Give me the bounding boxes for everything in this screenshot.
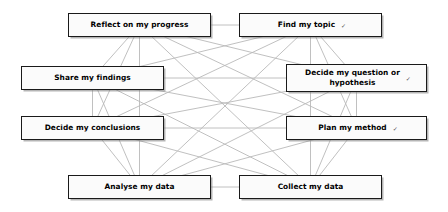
node-label: Share my findings (51, 73, 134, 83)
node-label: Plan my method (315, 123, 389, 133)
node-analyse-my-data[interactable]: Analyse my data (68, 175, 211, 199)
node-label: Decide my question or hypothesis (302, 68, 403, 88)
node-share-my-findings[interactable]: Share my findings (21, 66, 164, 90)
node-find-my-topic[interactable]: Find my topic ✓ (239, 13, 382, 37)
node-plan-my-method[interactable]: Plan my method ✓ (286, 116, 427, 140)
node-decide-my-question-or-hypothesis[interactable]: Decide my question or hypothesis ✓ (286, 64, 427, 92)
node-reflect-on-my-progress[interactable]: Reflect on my progress (68, 13, 211, 37)
node-label: Collect my data (275, 182, 347, 192)
check-icon: ✓ (406, 75, 411, 82)
node-label: Analyse my data (102, 182, 178, 192)
node-label: Reflect on my progress (88, 20, 192, 30)
node-label: Decide my conclusions (42, 123, 144, 133)
diagram-canvas: Reflect on my progress Find my topic ✓ D… (0, 0, 448, 212)
check-icon: ✓ (341, 22, 346, 29)
node-decide-my-conclusions[interactable]: Decide my conclusions (21, 116, 164, 140)
check-icon: ✓ (393, 125, 398, 132)
node-label: Find my topic (275, 20, 338, 30)
node-collect-my-data[interactable]: Collect my data (239, 175, 382, 199)
